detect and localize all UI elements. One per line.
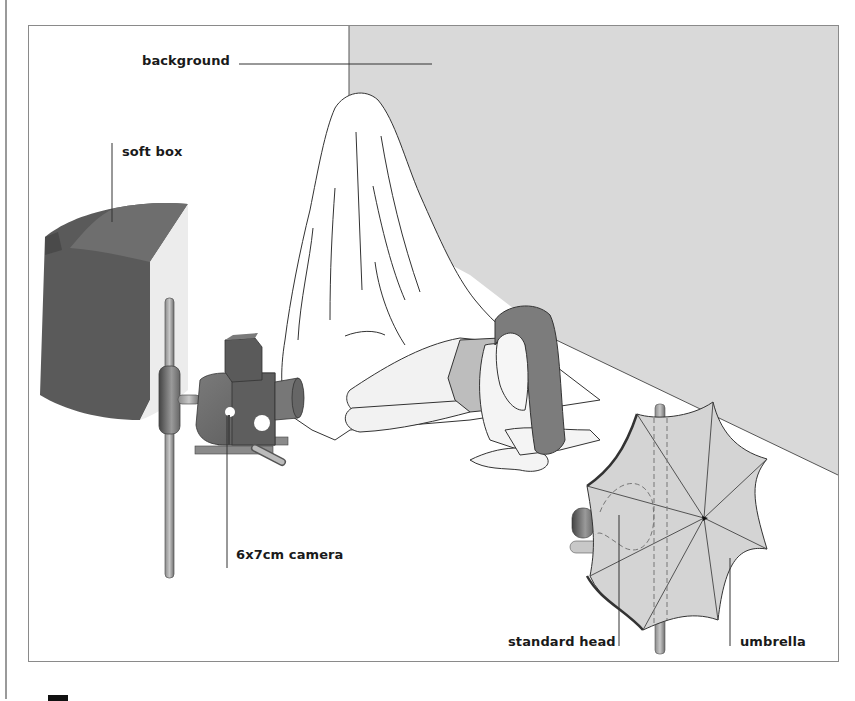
page-corner-mark bbox=[48, 695, 68, 701]
label-standard-head: standard head bbox=[508, 634, 616, 649]
label-soft-box: soft box bbox=[122, 144, 183, 159]
label-camera: 6x7cm camera bbox=[236, 547, 343, 562]
label-background: background bbox=[142, 53, 230, 68]
label-umbrella: umbrella bbox=[740, 634, 806, 649]
